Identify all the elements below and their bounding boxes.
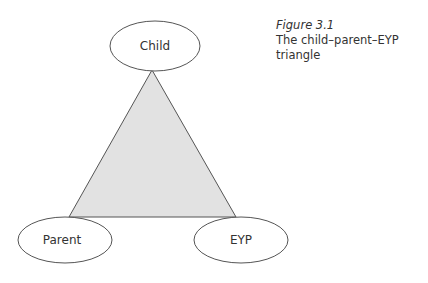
node-eyp-label: EYP [230,233,252,247]
node-parent: Parent [18,217,112,263]
node-child-label: Child [140,39,170,53]
figure-caption: Figure 3.1 The child–parent–EYP triangle [276,18,428,63]
triangle [69,70,236,217]
figure-title: The child–parent–EYP triangle [276,33,428,63]
node-child: Child [110,21,200,71]
figure-number: Figure 3.1 [276,18,428,33]
node-eyp: EYP [194,217,288,263]
node-parent-label: Parent [43,233,82,247]
